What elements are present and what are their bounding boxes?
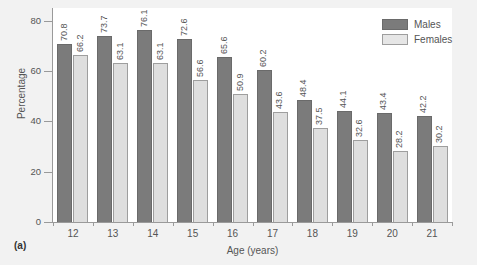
bar-value-label: 37.5 [314,107,324,125]
y-axis-tick [44,121,53,122]
bar-value-label: 73.7 [99,16,109,34]
x-axis-tick [173,222,174,226]
bar-value-label: 60.2 [258,50,268,68]
bar-value-label: 43.4 [378,92,388,110]
y-axis-tick [44,21,53,22]
bar-value-label: 32.6 [354,119,364,137]
bar-males-12: 70.8 [57,44,72,222]
bar-value-label: 56.6 [195,59,205,77]
bar-females-12: 66.2 [73,55,88,222]
bar-value-label: 44.1 [338,90,348,108]
bar-group: 76.163.1 [133,8,173,222]
bar-value-label: 43.6 [274,92,284,110]
bar-group: 70.866.2 [53,8,93,222]
bar-males-15: 72.6 [177,39,192,222]
bar-males-17: 60.2 [257,70,272,222]
bar-females-16: 50.9 [233,94,248,222]
bar-females-20: 28.2 [393,151,408,222]
bar-group: 65.650.9 [213,8,253,222]
legend-swatch-males [382,19,408,30]
bar-females-17: 43.6 [273,112,288,222]
bar-value-label: 50.9 [235,73,245,91]
x-axis-tick [372,222,373,226]
bar-males-21: 42.2 [417,116,432,222]
bar-females-21: 30.2 [433,146,448,222]
x-axis-tick-label-18: 18 [292,228,332,239]
bar-males-14: 76.1 [137,30,152,222]
bar-group: 48.437.5 [292,8,332,222]
y-axis-tick [44,222,53,223]
x-axis-tick-label-17: 17 [253,228,293,239]
legend-label: Females [414,34,452,45]
bar-value-label: 70.8 [59,23,69,41]
bar-group: 73.763.1 [93,8,133,222]
x-axis-tick [213,222,214,226]
x-axis-tick-label-19: 19 [332,228,372,239]
bar-value-label: 63.1 [115,43,125,61]
x-axis-tick [93,222,94,226]
y-axis-tick [44,172,53,173]
bar-males-18: 48.4 [297,100,312,222]
x-axis-title: Age (years) [53,245,452,256]
legend-swatch-females [382,34,408,45]
bar-value-label: 63.1 [155,43,165,61]
x-axis-tick-label-14: 14 [133,228,173,239]
bar-group: 60.243.6 [253,8,293,222]
bar-value-label: 72.6 [179,19,189,37]
y-axis-title: Percentage [16,34,27,154]
bar-males-13: 73.7 [97,36,112,222]
x-axis-tick-label-15: 15 [173,228,213,239]
bar-value-label: 30.2 [434,125,444,143]
bar-group: 72.656.6 [173,8,213,222]
bar-females-14: 63.1 [153,63,168,222]
x-axis-tick-label-13: 13 [93,228,133,239]
bar-females-13: 63.1 [113,63,128,222]
x-axis-tick-label-16: 16 [213,228,253,239]
x-axis-tick-label-20: 20 [372,228,412,239]
x-axis-tick-label-21: 21 [412,228,452,239]
bar-males-20: 43.4 [377,113,392,222]
x-axis-tick [133,222,134,226]
bar-value-label: 65.6 [219,36,229,54]
legend-item-females: Females [382,34,452,45]
bar-group: 44.132.6 [332,8,372,222]
x-axis-tick-labels: 12131415161718192021 [53,228,452,239]
bar-males-19: 44.1 [337,111,352,222]
x-axis-tick-label-12: 12 [53,228,93,239]
y-axis-tick [44,71,53,72]
x-axis-tick [292,222,293,226]
y-axis-tick-label: 0 [1,216,41,227]
x-axis-tick [412,222,413,226]
x-axis-tick [452,222,453,226]
x-axis-tick [53,222,54,226]
legend-label: Males [414,19,441,30]
y-axis-tick-label: 20 [1,166,41,177]
legend-item-males: Males [382,19,452,30]
bar-value-label: 76.1 [139,10,149,28]
bar-females-15: 56.6 [193,80,208,222]
bar-value-label: 28.2 [394,130,404,148]
bar-females-19: 32.6 [353,140,368,222]
bar-chart-figure: 020406080 Percentage 70.866.273.763.176.… [0,0,477,265]
bar-value-label: 48.4 [298,80,308,98]
y-axis-tick-label: 80 [1,15,41,26]
bar-value-label: 66.2 [75,35,85,53]
bar-value-label: 42.2 [418,95,428,113]
bar-females-18: 37.5 [313,128,328,222]
panel-caption: (a) [14,240,26,251]
legend: MalesFemales [382,19,452,45]
x-axis-tick [332,222,333,226]
bar-males-16: 65.6 [217,57,232,222]
x-axis-tick [253,222,254,226]
